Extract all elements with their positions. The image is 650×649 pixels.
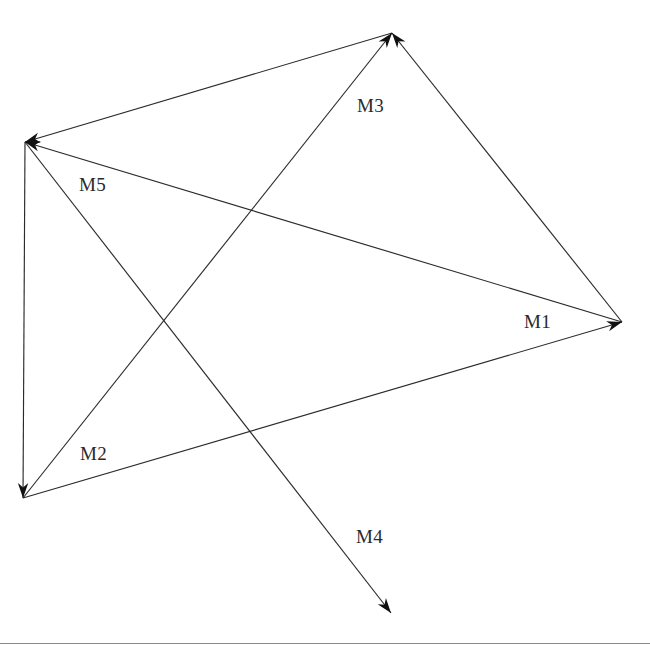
diagram-canvas: M3 M5 M1 M2 M4	[0, 0, 650, 649]
edge-e6	[392, 33, 622, 322]
edge-e7	[25, 33, 392, 142]
edge-label-m3: M3	[357, 96, 384, 115]
arrowhead-e4	[378, 598, 391, 613]
edge-label-m1: M1	[524, 312, 551, 331]
edge-label-m5: M5	[79, 175, 106, 194]
footer-divider	[0, 643, 650, 644]
vector-diagram-svg	[0, 0, 650, 649]
edge-label-m2: M2	[80, 444, 107, 463]
edge-e4	[25, 142, 391, 613]
edge-e1	[23, 33, 392, 498]
edge-e2	[23, 322, 622, 498]
edge-label-m4: M4	[356, 527, 383, 546]
arrowhead-e6	[392, 33, 405, 48]
edge-e3	[23, 142, 25, 498]
edge-e5	[25, 142, 622, 322]
